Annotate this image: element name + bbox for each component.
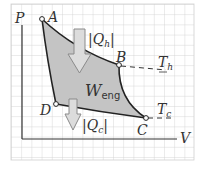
label-c: C <box>137 122 148 138</box>
point-d <box>54 102 59 107</box>
qc-label: |Qc| <box>82 117 108 135</box>
label-a: A <box>46 9 58 25</box>
p-axis-label: P <box>14 10 25 26</box>
qh-label: |Qh| <box>88 31 115 49</box>
point-c <box>144 116 149 121</box>
label-d: D <box>39 102 51 118</box>
pv-diagram: P V A B C D |Qh| |Qc| Weng Th Tc <box>0 0 205 171</box>
label-b: B <box>115 49 126 65</box>
point-a <box>40 17 45 22</box>
